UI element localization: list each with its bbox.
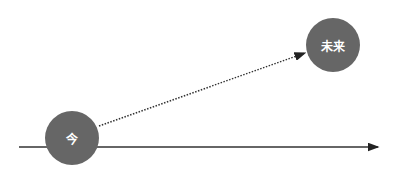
node-future-label: 未来 <box>321 37 345 54</box>
diagram-canvas: 今 未来 <box>0 0 393 173</box>
progress-dotted-arrow <box>99 53 305 126</box>
node-now: 今 <box>45 111 99 165</box>
node-now-label: 今 <box>66 130 78 147</box>
node-future: 未来 <box>306 18 360 72</box>
